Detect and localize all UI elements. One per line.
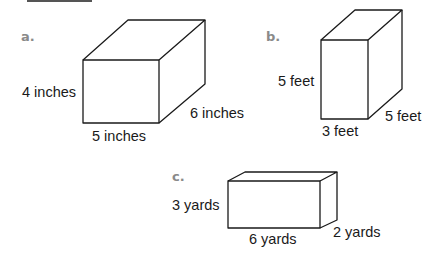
prism-b-front-face <box>321 40 368 119</box>
prism-b-height-label: 5 feet <box>278 73 314 89</box>
prism-c-width-label: 6 yards <box>249 231 297 247</box>
prism-c-label: c. <box>172 169 185 184</box>
prism-a-label: a. <box>21 29 35 44</box>
prism-a-front-face <box>83 60 159 123</box>
prism-a-height-label: 4 inches <box>22 84 76 100</box>
prism-c-height-label: 3 yards <box>172 197 220 213</box>
prism-b: b. 5 feet 3 feet 5 feet <box>266 10 421 139</box>
prism-b-width-label: 3 feet <box>322 123 358 139</box>
prism-b-side-face <box>368 10 402 119</box>
prism-b-depth-label: 5 feet <box>385 108 421 124</box>
prism-a-depth-label: 6 inches <box>190 105 244 121</box>
prism-a-top-face <box>83 20 205 60</box>
prism-c-side-face <box>320 172 337 228</box>
prism-b-label: b. <box>266 29 280 44</box>
prism-b-top-face <box>321 10 402 40</box>
prism-c-top-face <box>228 172 337 181</box>
prism-a: a. 4 inches 5 inches 6 inches <box>21 20 244 144</box>
rectangular-prisms-figure: a. 4 inches 5 inches 6 inches b. 5 feet … <box>0 0 443 257</box>
prism-c-depth-label: 2 yards <box>333 224 381 240</box>
prism-a-width-label: 5 inches <box>92 128 146 144</box>
prism-c: c. 3 yards 6 yards 2 yards <box>172 169 381 247</box>
prism-c-front-face <box>228 181 320 228</box>
